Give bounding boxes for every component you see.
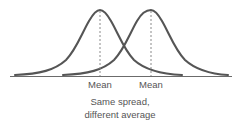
caption-line-2: different average bbox=[84, 109, 155, 120]
mean-label-right: Mean bbox=[139, 79, 163, 90]
distribution-curve-left bbox=[15, 10, 182, 75]
mean-label-left: Mean bbox=[88, 79, 112, 90]
caption-line-1: Same spread, bbox=[90, 96, 149, 107]
normal-curves-figure: Mean Mean Same spread, different average bbox=[0, 0, 240, 133]
distribution-curve-right bbox=[63, 10, 228, 75]
